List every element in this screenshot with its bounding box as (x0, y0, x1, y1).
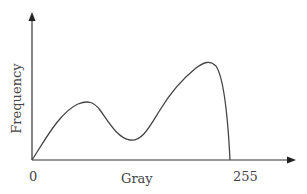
histogram-chart: 0 Gray 255 Frequency (0, 0, 307, 194)
y-axis-arrow-icon (29, 12, 36, 21)
x-tick-label-max: 255 (233, 170, 258, 183)
x-axis-title: Gray (121, 172, 153, 185)
y-axis-title: Frequency (10, 59, 23, 139)
chart-canvas (0, 0, 307, 194)
histogram-curve (32, 62, 230, 160)
x-axis-arrow-icon (287, 157, 296, 164)
x-tick-label-origin: 0 (29, 170, 37, 183)
